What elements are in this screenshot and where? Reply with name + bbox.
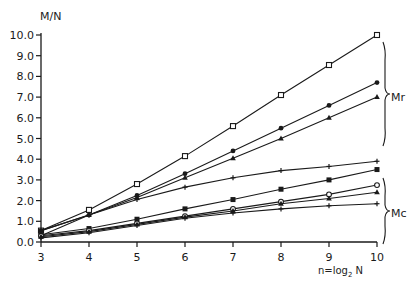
x-tick-label: 9 (326, 251, 333, 264)
y-tick-label: 1.0 (17, 215, 35, 228)
group-label-mr: Mr (391, 91, 405, 104)
y-tick-label: 6.0 (17, 112, 35, 125)
y-tick-label: 4.0 (17, 153, 35, 166)
triangle-marker-icon (374, 94, 380, 99)
square-marker-icon (375, 167, 380, 172)
square-marker-icon (327, 177, 332, 182)
square-marker-icon (183, 206, 188, 211)
bracket-mc (383, 178, 390, 244)
series-line (39, 33, 380, 234)
square-marker-icon (327, 63, 332, 68)
x-axis-label-main: n=log (318, 265, 348, 276)
square-marker-icon (135, 182, 140, 187)
x-tick-label: 8 (278, 251, 285, 264)
x-axis-label-end: N (352, 265, 363, 276)
y-tick-label: 3.0 (17, 174, 35, 187)
y-tick-label: 9.0 (17, 50, 35, 63)
y-tick-label: 0.0 (17, 236, 35, 249)
square-marker-icon (183, 154, 188, 159)
series-line (39, 167, 380, 237)
x-tick-label: 5 (134, 251, 141, 264)
circle-marker-icon (279, 126, 284, 131)
square-marker-icon (279, 187, 284, 192)
bracket-mr (383, 42, 390, 146)
group-brackets (383, 42, 390, 244)
x-tick-label: 7 (230, 251, 237, 264)
x-axis-label: n=log2 N (318, 265, 363, 279)
y-tick-label: 10.0 (10, 29, 35, 42)
circle-marker-icon (231, 149, 236, 154)
y-axis-label: M/N (40, 10, 61, 23)
square-marker-icon (231, 197, 236, 202)
y-tick-label: 7.0 (17, 91, 35, 104)
square-marker-icon (279, 93, 284, 98)
circle-marker-icon (375, 80, 380, 85)
x-tick-label: 3 (38, 251, 45, 264)
triangle-marker-icon (374, 189, 380, 194)
x-tick-label: 4 (86, 251, 93, 264)
x-tick-label: 10 (370, 251, 384, 264)
square-marker-icon (375, 33, 380, 38)
group-label-mc: Mc (391, 207, 407, 220)
circle-marker-icon (375, 183, 380, 188)
square-marker-icon (87, 207, 92, 212)
y-tick-label: 8.0 (17, 70, 35, 83)
series-group (38, 33, 380, 241)
square-marker-icon (231, 124, 236, 129)
y-tick-label: 2.0 (17, 195, 35, 208)
line-chart: 0.01.02.03.04.05.06.07.08.09.010.0345678… (0, 0, 412, 290)
x-tick-label: 6 (182, 251, 189, 264)
circle-marker-icon (327, 103, 332, 108)
y-tick-label: 5.0 (17, 133, 35, 146)
